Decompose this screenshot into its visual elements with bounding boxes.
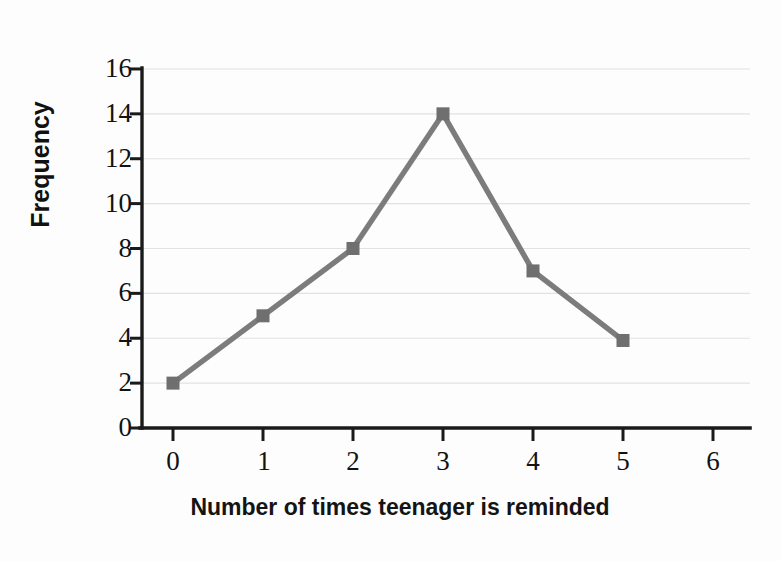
frequency-polygon-chart: Frequency 0 2 4 6 8 10 12 14 16 0 1 2 3 … (0, 0, 781, 561)
axis-ticks (130, 69, 713, 441)
data-point-marker-4 (527, 264, 540, 277)
data-point-marker-0 (167, 377, 180, 390)
data-point-marker-2 (347, 242, 360, 255)
data-point-marker-3 (437, 107, 450, 120)
data-point-marker-5 (617, 334, 630, 347)
data-point-marker-1 (257, 309, 270, 322)
plot-area (0, 0, 781, 561)
